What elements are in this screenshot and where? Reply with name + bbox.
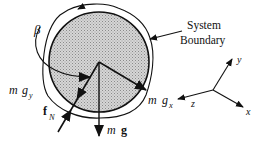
- gravity-symbol: g: [162, 93, 168, 107]
- subscript-n: N: [48, 112, 56, 122]
- normal-force-arrow: [62, 110, 71, 125]
- axis-y-label: y: [236, 54, 242, 65]
- force-symbol: f: [43, 104, 48, 118]
- system-boundary-pointer: [150, 31, 182, 39]
- axis-y-arrow: [213, 59, 232, 90]
- subscript-x: x: [168, 100, 173, 110]
- mass-symbol: m: [107, 123, 116, 137]
- subscript-y: y: [28, 91, 33, 100]
- axis-x-label: x: [245, 106, 251, 117]
- gravity-symbol-bold: g: [121, 123, 127, 137]
- system-boundary-label-line1: System: [187, 19, 221, 32]
- axis-x-arrow: [213, 90, 243, 107]
- axis-z-arrow: [178, 90, 213, 99]
- angle-beta-label: β: [33, 22, 41, 37]
- free-body-diagram: β System Boundary m g y f N m g m g x y …: [0, 0, 258, 142]
- normal-force-label: f N: [43, 104, 56, 122]
- axis-z-label: z: [190, 98, 195, 109]
- mass-symbol: m: [9, 83, 18, 97]
- coordinate-axes: [178, 59, 243, 107]
- system-boundary-label-line2: Boundary: [180, 34, 226, 47]
- weight-label: m g: [107, 123, 127, 137]
- mass-symbol: m: [148, 93, 157, 107]
- weight-x-component-label: m g x: [148, 93, 173, 110]
- weight-y-component-label: m g y: [9, 83, 33, 100]
- gravity-symbol: g: [22, 83, 28, 97]
